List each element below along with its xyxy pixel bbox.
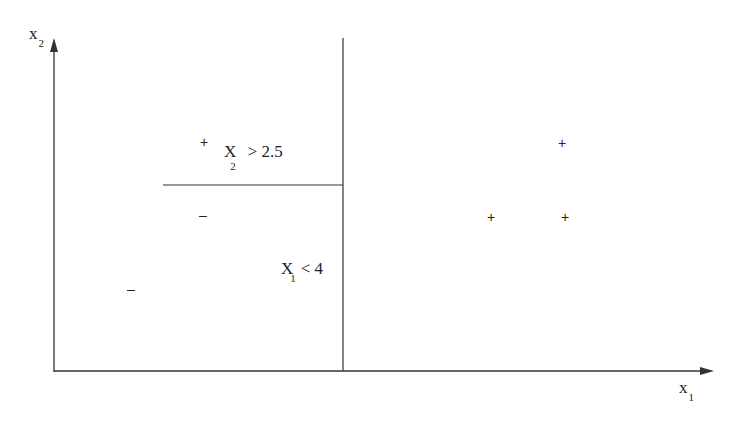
x-axis-label: x1 xyxy=(679,378,693,398)
point-plus-marker: + xyxy=(558,136,566,150)
split-label-x1: X1< 4 xyxy=(281,259,323,279)
y-axis-label: x2 xyxy=(29,24,43,44)
split-label-x2: X2> 2.5 xyxy=(224,142,283,162)
point-minus-marker: – xyxy=(127,282,135,296)
point-plus-marker: + xyxy=(561,210,569,224)
point-minus-marker: – xyxy=(199,208,207,222)
point-plus-marker: + xyxy=(200,135,208,149)
decision-boundary-diagram xyxy=(0,0,732,428)
x-axis-arrow-icon xyxy=(700,367,714,375)
point-plus-marker: + xyxy=(487,210,495,224)
y-axis-arrow-icon xyxy=(50,38,58,52)
